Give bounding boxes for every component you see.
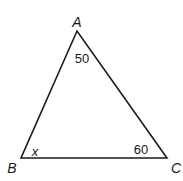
angle-label-b: x: [31, 144, 39, 159]
vertex-label-c: C: [171, 160, 182, 176]
triangle-abc: [21, 31, 167, 158]
angle-label-a: 50: [75, 51, 89, 66]
angle-label-c: 60: [134, 142, 148, 157]
vertex-label-a: A: [71, 14, 81, 30]
triangle-diagram: A B C 50 x 60: [0, 0, 183, 181]
vertex-label-b: B: [7, 160, 16, 176]
